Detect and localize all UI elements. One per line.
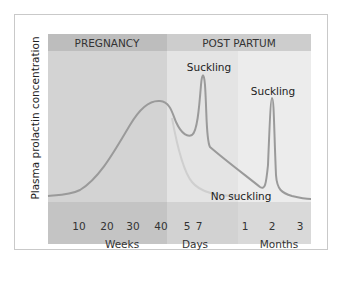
y-axis-label: Plasma prolactin concentration [29, 36, 41, 199]
prolactin-chart: PREGNANCY POST PARTUM Suckling Suckling … [0, 0, 338, 282]
tick-1: 1 [242, 220, 249, 232]
unit-days: Days [182, 238, 208, 250]
zone-pregnancy [48, 34, 167, 202]
tick-10: 10 [72, 220, 85, 232]
label-post-partum: POST PARTUM [202, 37, 276, 49]
tick-20: 20 [100, 220, 113, 232]
annotation-suckling-2: Suckling [251, 85, 295, 97]
unit-months: Months [260, 238, 298, 250]
tick-2: 2 [269, 220, 276, 232]
unit-weeks: Weeks [105, 238, 139, 250]
tick-7: 7 [196, 220, 203, 232]
zone-days [167, 34, 238, 202]
tick-30: 30 [126, 220, 139, 232]
label-pregnancy: PREGNANCY [75, 37, 140, 49]
annotation-no-suckling: No suckling [211, 190, 272, 202]
tick-40: 40 [154, 220, 167, 232]
annotation-suckling-1: Suckling [187, 61, 231, 73]
tick-3: 3 [297, 220, 304, 232]
tick-5: 5 [184, 220, 191, 232]
